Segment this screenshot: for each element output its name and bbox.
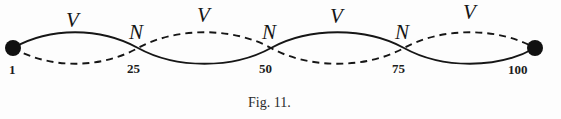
node-number-25: 25: [127, 62, 140, 75]
antinode-label-2: V: [197, 5, 210, 26]
node-number-75: 75: [392, 62, 405, 75]
antinode-label-4: V: [463, 2, 476, 23]
figure-caption: Fig. 11.: [248, 96, 291, 110]
node-letter-75: N: [395, 22, 409, 43]
node-letter-50: N: [262, 22, 276, 43]
figure-container: V V V V N N N 1 25 50 75 100 Fig. 11.: [0, 0, 561, 119]
endpoint-number-100: 100: [508, 63, 528, 76]
node-number-50: 50: [259, 62, 272, 75]
endpoint-number-1: 1: [9, 63, 16, 76]
antinode-label-3: V: [330, 6, 343, 27]
node-letter-25: N: [129, 22, 143, 43]
left-endpoint-dot: [5, 40, 21, 56]
right-endpoint-dot: [527, 40, 543, 56]
antinode-label-1: V: [66, 10, 79, 31]
